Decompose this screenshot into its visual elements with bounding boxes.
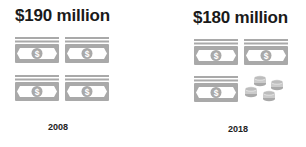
year-label: 2018	[228, 124, 248, 134]
year-label: 2008	[48, 122, 68, 132]
banknote-icon	[64, 37, 110, 64]
amount-label: $180 million	[193, 8, 288, 28]
banknote-icon	[14, 75, 60, 102]
panel-2018: $180 million 2018	[153, 0, 306, 147]
banknote-icon	[193, 39, 239, 66]
amount-label: $190 million	[15, 6, 110, 26]
banknote-icon	[64, 75, 110, 102]
banknote-icon	[243, 39, 289, 66]
panel-2008: $190 million 2008	[0, 0, 153, 147]
coin-stacks-icon	[243, 74, 289, 106]
banknote-icon	[193, 76, 239, 103]
banknote-icon	[14, 37, 60, 64]
